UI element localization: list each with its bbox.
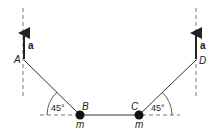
mass-C-label: m: [135, 119, 143, 130]
mass-B-label: m: [76, 119, 84, 130]
string-CD: [139, 60, 196, 115]
acceleration-label-right: a: [200, 40, 206, 51]
point-B-label: B: [82, 101, 89, 112]
angle-right-label: 45°: [151, 103, 165, 113]
point-D-label: D: [199, 55, 206, 66]
point-C-label: C: [131, 101, 139, 112]
pulley-diagram: a a A D B C m m 45° 45°: [0, 0, 221, 138]
point-A-label: A: [13, 54, 21, 65]
angle-left-label: 45°: [51, 103, 65, 113]
acceleration-label-left: a: [28, 40, 34, 51]
